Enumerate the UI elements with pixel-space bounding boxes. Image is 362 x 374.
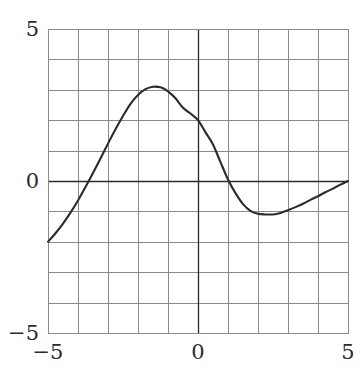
- y-axis-tick-label-zero: 0: [26, 171, 39, 192]
- x-axis-tick-label-right: 5: [341, 342, 354, 363]
- x-axis-tick-label-zero: 0: [191, 342, 204, 363]
- chart-figure: 5 0 −5 −5 0 5: [0, 0, 362, 374]
- y-axis-tick-label-top: 5: [26, 19, 39, 40]
- x-axis-tick-label-left: −5: [33, 342, 64, 363]
- zero-axes: [48, 29, 348, 333]
- plot-canvas: [0, 0, 362, 374]
